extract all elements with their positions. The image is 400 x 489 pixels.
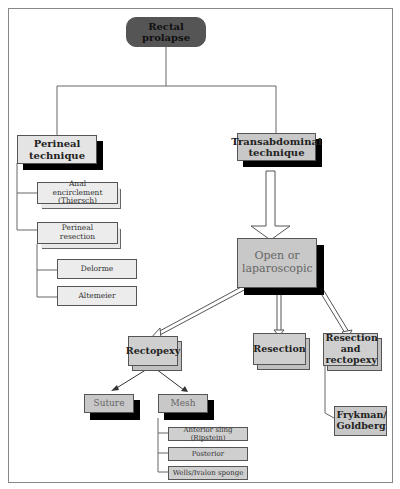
node-label: Altemeier <box>78 292 115 301</box>
node-label: Mesh <box>171 398 196 408</box>
node-label: Wells/Ivalon sponge <box>173 469 244 477</box>
node-label: Posterior <box>192 450 224 458</box>
node-label: Rectopexy <box>126 346 180 357</box>
node-label: Delorme <box>81 265 114 274</box>
node-transabdominal-technique: Transabdominal technique <box>237 133 316 161</box>
node-label: Anterior sling (Ripstein) <box>169 426 247 442</box>
node-rectopexy: Rectopexy <box>128 336 178 366</box>
node-label: Resection <box>253 344 305 355</box>
node-altemeier: Altemeier <box>57 286 137 306</box>
node-label: Resection and rectopexy <box>326 333 376 366</box>
node-frykman-goldberg: Frykman/ Goldberg <box>334 406 387 436</box>
node-label: Frykman/ Goldberg <box>337 410 385 432</box>
node-label: Anal encirclement (Thiersch) <box>48 180 108 206</box>
node-wells-ivalon-sponge: Wells/Ivalon sponge <box>168 466 248 480</box>
node-label: Suture <box>93 398 124 408</box>
node-open-or-laparoscopic: Open or laparoscopic <box>237 238 317 288</box>
node-resection: Resection <box>253 333 306 365</box>
node-label: Rectal prolapse <box>127 21 205 44</box>
node-label: Open or laparoscopic <box>242 250 312 275</box>
node-rectal-prolapse: Rectal prolapse <box>126 17 206 47</box>
node-anal-encirclement: Anal encirclement (Thiersch) <box>37 182 118 204</box>
node-label: Perineal resection <box>58 224 98 241</box>
node-perineal-technique: Perineal technique <box>17 135 97 164</box>
node-delorme: Delorme <box>57 259 137 279</box>
node-posterior: Posterior <box>168 447 248 461</box>
node-perineal-resection: Perineal resection <box>37 222 118 244</box>
node-suture: Suture <box>84 394 134 413</box>
node-resection-and-rectopexy: Resection and rectopexy <box>323 333 378 366</box>
node-anterior-sling: Anterior sling (Ripstein) <box>168 427 248 441</box>
node-label: Perineal technique <box>18 138 96 161</box>
node-label: Transabdominal technique <box>231 136 321 159</box>
node-mesh: Mesh <box>158 394 208 413</box>
